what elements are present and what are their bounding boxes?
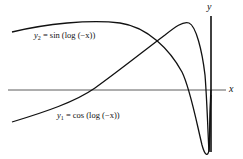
x-axis-label: x [229,84,233,94]
label-y2: y2 = sin (log (−x)) [34,31,95,41]
label-y1-expr: = cos (log (−x)) [64,110,120,120]
plot-area [0,0,243,159]
label-y2-expr: = sin (log (−x)) [41,30,95,40]
label-y1: y1 = cos (log (−x)) [57,111,120,121]
curve-y2-sin [12,22,211,155]
y-axis-label: y [207,2,211,12]
curve-y1-cos [12,23,211,152]
